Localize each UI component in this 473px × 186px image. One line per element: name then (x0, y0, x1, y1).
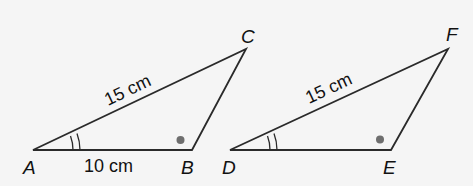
congruent-triangles-figure: A B C 15 cm 10 cm D E F 15 cm (0, 0, 473, 186)
vertex-label-e: E (383, 157, 396, 178)
triangle-def: D E F 15 cm (222, 24, 459, 178)
triangle-def-outline (230, 49, 448, 150)
vertex-label-f: F (446, 24, 459, 45)
angle-a-arc-outer (77, 134, 80, 151)
vertex-label-a: A (22, 157, 36, 178)
angle-e-dot-marker (376, 136, 384, 144)
figure-canvas: A B C 15 cm 10 cm D E F 15 cm (0, 0, 473, 186)
vertex-label-b: B (181, 157, 194, 178)
side-ac-length-label: 15 cm (101, 70, 154, 109)
angle-b-dot-marker (177, 136, 185, 144)
triangle-abc-outline (33, 49, 246, 150)
angle-d-arc-inner (268, 136, 271, 150)
angle-a-arc-inner (71, 136, 74, 150)
side-df-length-label: 15 cm (302, 69, 355, 108)
angle-d-arc-outer (274, 134, 277, 151)
side-ab-length-label: 10 cm (84, 156, 133, 176)
vertex-label-c: C (241, 26, 255, 47)
vertex-label-d: D (222, 157, 236, 178)
triangle-abc: A B C 15 cm 10 cm (22, 26, 255, 178)
